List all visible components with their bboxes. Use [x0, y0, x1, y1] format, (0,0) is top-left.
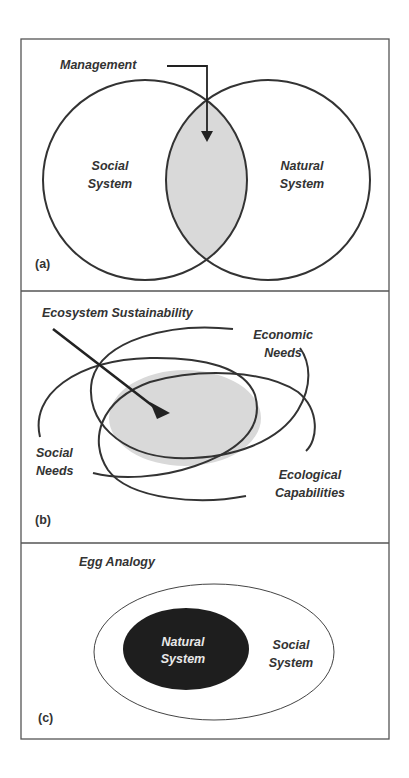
panel-b: Ecosystem Sustainability Economic Needs …	[35, 306, 345, 527]
label-social-system-line1: Social	[92, 159, 129, 173]
label-natural-system-line1: Natural	[280, 159, 324, 173]
label-natural-system-line1: Natural	[161, 635, 205, 649]
label-economic-needs-line2: Needs	[264, 346, 302, 360]
ellipse-natural-system-inner	[123, 608, 249, 690]
label-economic-needs-line1: Economic	[253, 328, 313, 342]
panel-a: Management Social System Natural System …	[35, 58, 370, 280]
overlap-region-management	[166, 80, 370, 280]
label-ecological-capabilities-line2: Capabilities	[275, 486, 345, 500]
label-social-system-line1: Social	[273, 638, 310, 652]
label-natural-system-line2: System	[280, 177, 324, 191]
label-social-system-line2: System	[88, 177, 132, 191]
label-natural-system-line2: System	[161, 652, 205, 666]
label-management: Management	[60, 58, 137, 72]
label-social-system-line2: System	[269, 656, 313, 670]
diagram-canvas: Management Social System Natural System …	[0, 0, 409, 778]
panel-tag-a: (a)	[35, 257, 50, 271]
panel-tag-b: (b)	[35, 513, 51, 527]
label-social-needs-line2: Needs	[36, 464, 74, 478]
arrow-sustainability	[53, 329, 158, 410]
panel-tag-c: (c)	[38, 711, 53, 725]
panel-c: Egg Analogy Natural System Social System…	[38, 555, 334, 725]
label-ecological-capabilities-line1: Ecological	[279, 468, 342, 482]
label-egg-analogy: Egg Analogy	[79, 555, 156, 569]
label-social-needs-line1: Social	[36, 446, 73, 460]
label-ecosystem-sustainability: Ecosystem Sustainability	[42, 306, 194, 320]
